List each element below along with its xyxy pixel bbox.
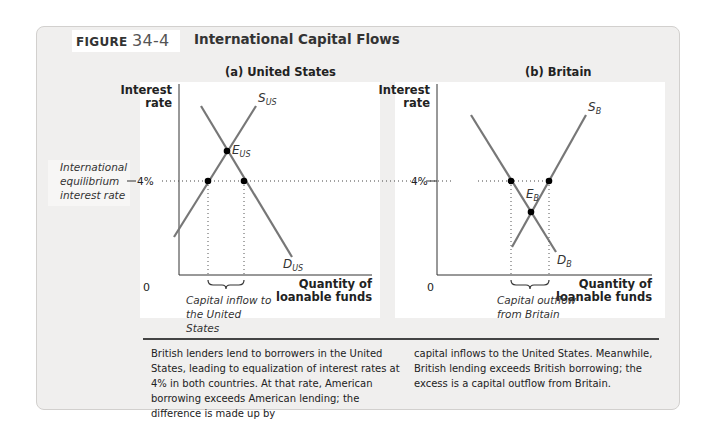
label-e-b: EB <box>526 187 539 203</box>
y-tick-annotation: International equilibrium interest rate <box>60 160 130 202</box>
label-s-us: SUS <box>258 91 277 107</box>
origin-label-britain: 0 <box>427 281 434 294</box>
y-tick-4pct-us: 4% <box>137 175 154 187</box>
y-tick-4pct-britain: 4% <box>411 175 428 187</box>
y-axis-label-britain: Interest rate <box>374 84 430 110</box>
annotation-capital-inflow: Capital inflow to the United States <box>186 293 274 335</box>
caption-rule <box>143 338 659 340</box>
label-d-b: DB <box>557 253 572 269</box>
origin-label-us: 0 <box>143 281 150 294</box>
label-e-us: EUS <box>232 143 251 159</box>
annotation-capital-outflow: Capital outflow from Britain <box>497 293 587 321</box>
y-axis-label-us: Interest rate <box>116 84 172 110</box>
caption-col-1: British lenders lend to borrowers in the… <box>151 346 406 421</box>
x-axis-label-us: Quantity of loanable funds <box>276 278 372 304</box>
label-s-b: SB <box>588 100 601 116</box>
caption-col-2: capital inflows to the United States. Me… <box>414 346 659 391</box>
label-d-us: DUS <box>283 257 303 273</box>
